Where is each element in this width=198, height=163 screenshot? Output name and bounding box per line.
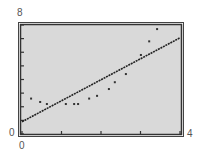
plot-area bbox=[21, 25, 182, 135]
data-point bbox=[125, 73, 127, 75]
chart-canvas bbox=[0, 0, 198, 163]
data-point bbox=[148, 40, 150, 42]
y-axis-min-label: 0 bbox=[9, 128, 15, 138]
data-point bbox=[30, 98, 32, 100]
data-point bbox=[108, 88, 110, 90]
data-point bbox=[156, 28, 158, 30]
data-point bbox=[114, 81, 116, 83]
data-point bbox=[140, 54, 142, 56]
data-point bbox=[96, 95, 98, 97]
y-axis-max-label: 8 bbox=[17, 8, 23, 18]
data-point bbox=[88, 98, 90, 100]
x-axis-min-label: 0 bbox=[19, 141, 25, 151]
data-point bbox=[77, 103, 79, 105]
x-axis-max-label: 4 bbox=[187, 129, 193, 139]
data-point bbox=[65, 103, 67, 105]
data-point bbox=[39, 101, 41, 103]
data-point bbox=[46, 103, 48, 105]
data-point bbox=[73, 103, 75, 105]
